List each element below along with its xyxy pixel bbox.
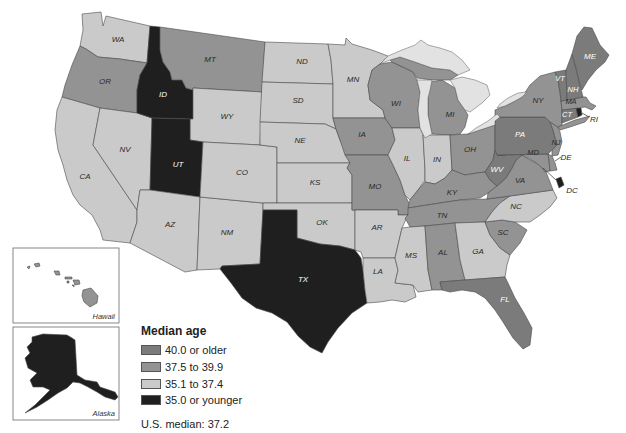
- state-label-wi: WI: [391, 99, 402, 108]
- legend-item-40-plus: 40.0 or older: [141, 342, 291, 359]
- state-label-nv: NV: [119, 145, 131, 154]
- legend-label: 40.0 or older: [165, 344, 227, 356]
- state-label-ny: NY: [532, 96, 544, 105]
- state-az: [130, 190, 200, 272]
- state-label-ca: CA: [79, 172, 90, 181]
- state-label-fl: FL: [500, 295, 509, 304]
- states-layer: [55, 12, 609, 353]
- legend-swatch: [141, 345, 161, 355]
- state-label-in: IN: [433, 155, 441, 164]
- state-label-ms: MS: [405, 251, 418, 260]
- state-label-tn: TN: [437, 211, 448, 220]
- alaska-label: Alaska: [91, 409, 115, 418]
- legend-label: 37.5 to 39.9: [165, 361, 223, 373]
- state-label-sd: SD: [292, 96, 303, 105]
- state-label-nj: NJ: [551, 138, 560, 147]
- state-label-oh: OH: [464, 145, 476, 154]
- state-dc: [556, 177, 564, 188]
- state-label-mi: MI: [446, 110, 456, 119]
- state-label-wv: WV: [491, 165, 505, 174]
- state-label-tx: TX: [298, 275, 309, 284]
- state-label-de: DE: [560, 153, 572, 162]
- state-label-la: LA: [373, 267, 383, 276]
- state-label-ri: RI: [590, 115, 599, 124]
- hawaii-island: [65, 277, 72, 279]
- state-label-ia: IA: [358, 130, 366, 139]
- state-label-or: OR: [99, 77, 111, 86]
- legend-swatch: [141, 362, 161, 372]
- state-label-ct: CT: [562, 110, 573, 119]
- state-label-pa: PA: [515, 130, 525, 139]
- state-label-ky: KY: [447, 188, 458, 197]
- state-label-mn: MN: [347, 75, 360, 84]
- hawaii-inset: Hawaii: [13, 248, 119, 323]
- legend-label: 35.1 to 37.4: [165, 378, 223, 390]
- legend-swatch: [141, 379, 161, 389]
- state-label-nh: NH: [568, 85, 579, 94]
- state-label-ne: NE: [294, 136, 306, 145]
- leader-line-ri: [582, 113, 589, 117]
- legend-item-35-1-to-37-4: 35.1 to 37.4: [141, 375, 291, 392]
- hawaii-island: [67, 281, 69, 283]
- state-label-ks: KS: [310, 178, 321, 187]
- state-label-ga: GA: [472, 247, 484, 256]
- state-label-nc: NC: [510, 202, 522, 211]
- state-label-ma: MA: [565, 97, 576, 106]
- state-label-mt: MT: [204, 55, 217, 64]
- legend-label: 35.0 or younger: [165, 394, 242, 406]
- legend-title: Median age: [141, 323, 291, 339]
- state-label-md: MD: [527, 148, 539, 157]
- state-label-ar: AR: [370, 223, 382, 232]
- state-label-vt: VT: [555, 74, 566, 83]
- state-label-nm: NM: [221, 228, 234, 237]
- us-median-note: U.S. median: 37.2: [141, 418, 291, 430]
- us-map: WAORCANVIDMTWYUTAZNMCONDSDNEKSOKTXMNIAMO…: [0, 0, 626, 433]
- state-label-sc: SC: [497, 228, 508, 237]
- state-label-az: AZ: [164, 220, 176, 229]
- alaska-inset: Alaska: [13, 327, 119, 420]
- state-label-al: AL: [437, 248, 448, 257]
- state-label-id: ID: [159, 90, 167, 99]
- state-label-me: ME: [584, 52, 597, 61]
- state-label-wy: WY: [221, 112, 235, 121]
- legend-item-37-5-to-39-9: 37.5 to 39.9: [141, 359, 291, 376]
- state-sd: [260, 82, 336, 129]
- state-label-nd: ND: [296, 57, 308, 66]
- state-label-ok: OK: [316, 218, 328, 227]
- state-label-il: IL: [404, 154, 411, 163]
- state-label-dc: DC: [566, 186, 578, 195]
- hawaii-label: Hawaii: [92, 312, 115, 321]
- state-label-ut: UT: [173, 160, 185, 169]
- legend: Median age 40.0 or older 37.5 to 39.9 35…: [141, 323, 291, 430]
- state-pa: [495, 117, 557, 155]
- state-fl: [440, 277, 532, 349]
- state-label-co: CO: [236, 168, 248, 177]
- state-label-va: VA: [515, 176, 525, 185]
- state-label-wa: WA: [112, 35, 125, 44]
- legend-item-35-or-younger: 35.0 or younger: [141, 392, 291, 409]
- legend-swatch: [141, 395, 161, 405]
- median-age-map: WAORCANVIDMTWYUTAZNMCONDSDNEKSOKTXMNIAMO…: [0, 0, 626, 433]
- state-label-mo: MO: [369, 182, 382, 191]
